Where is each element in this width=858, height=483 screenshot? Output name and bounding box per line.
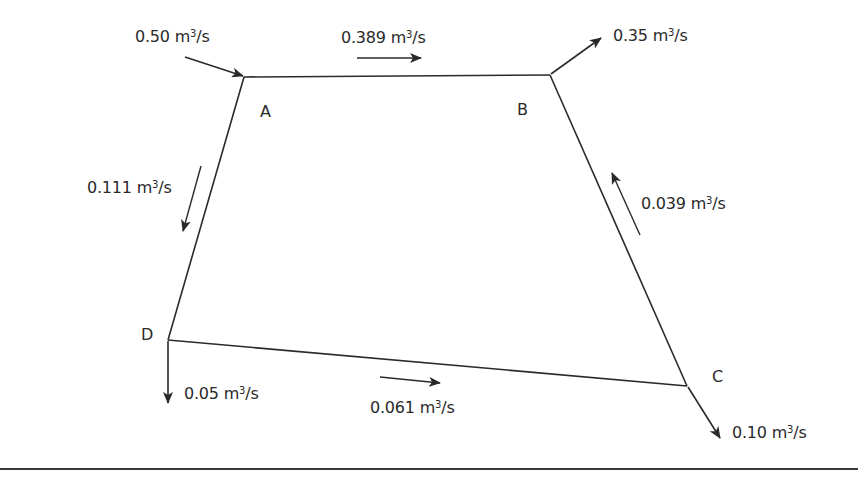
flow-unit-tail: /s [674, 26, 687, 45]
flow-arrow-a-d [183, 166, 201, 231]
flow-value: 0.50 [135, 27, 170, 46]
inflow-arrow-a [185, 57, 243, 76]
flow-unit-tail: /s [245, 384, 258, 403]
flow-unit-tail: /s [441, 398, 454, 417]
flow-value: 0.10 [732, 423, 767, 442]
flow-unit-exponent: 3 [787, 424, 793, 435]
inflow-label-a: 0.50 m3/s [135, 28, 210, 46]
flow-unit-tail: /s [196, 27, 209, 46]
flow-unit: m [175, 27, 190, 46]
flow-unit-exponent: 3 [435, 399, 441, 410]
flow-value: 0.111 [87, 178, 132, 197]
flow-unit-exponent: 3 [239, 385, 245, 396]
pipe-d-a [168, 77, 244, 340]
pipe-b-c [550, 75, 687, 386]
flow-unit-exponent: 3 [190, 28, 196, 39]
flow-value: 0.05 [184, 384, 219, 403]
outflow-label-b: 0.35 m3/s [613, 27, 688, 45]
node-label-d: D [141, 326, 153, 344]
flow-unit: m [224, 384, 239, 403]
outflow-label-c: 0.10 m3/s [732, 424, 807, 442]
flow-unit-tail: /s [158, 178, 171, 197]
flow-unit: m [772, 423, 787, 442]
pipe-c-d [168, 340, 687, 386]
pipe-flow-label-a-b: 0.389 m3/s [341, 29, 426, 47]
flow-unit-tail: /s [412, 28, 425, 47]
flow-value: 0.35 [613, 26, 648, 45]
flow-unit: m [653, 26, 668, 45]
outflow-arrow-b [551, 38, 601, 74]
outflow-label-d: 0.05 m3/s [184, 385, 259, 403]
flow-unit-tail: /s [712, 194, 725, 213]
flow-unit-exponent: 3 [706, 195, 712, 206]
pipe-a-b [244, 75, 550, 77]
node-label-b: B [517, 101, 528, 119]
bottom-divider-rule [0, 468, 858, 470]
pipe-flow-label-a-d: 0.111 m3/s [87, 179, 172, 197]
flow-unit-exponent: 3 [668, 27, 674, 38]
flow-unit: m [391, 28, 406, 47]
flow-unit-exponent: 3 [406, 29, 412, 40]
flow-arrow-d-c [380, 377, 440, 383]
flow-unit: m [691, 194, 706, 213]
flow-unit-tail: /s [793, 423, 806, 442]
pipe-loop [168, 75, 687, 386]
node-label-c: C [712, 368, 723, 386]
pipe-flow-label-c-b: 0.039 m3/s [641, 195, 726, 213]
flow-value: 0.061 [370, 398, 415, 417]
flow-unit: m [137, 178, 152, 197]
flow-value: 0.389 [341, 28, 386, 47]
pipe-flow-label-d-c: 0.061 m3/s [370, 399, 455, 417]
flow-unit-exponent: 3 [152, 179, 158, 190]
flow-value: 0.039 [641, 194, 686, 213]
flow-unit: m [420, 398, 435, 417]
outflow-arrow-c [688, 387, 720, 438]
node-label-a: A [260, 103, 271, 121]
